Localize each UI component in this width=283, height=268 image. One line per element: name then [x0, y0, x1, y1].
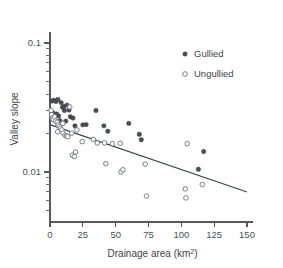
data-point-ungullied	[80, 139, 85, 144]
y-tick-label: 0.1	[28, 37, 41, 48]
data-point-ungullied	[185, 141, 190, 146]
data-point-ungullied	[95, 141, 100, 146]
data-point-ungullied	[61, 121, 66, 126]
data-point-gullied	[139, 138, 143, 142]
data-point-ungullied	[200, 182, 205, 187]
data-point-ungullied	[73, 150, 78, 155]
data-point-ungullied	[183, 187, 188, 192]
data-point-ungullied	[55, 129, 60, 134]
data-point-gullied	[62, 108, 66, 112]
x-tick-label: 0	[47, 229, 52, 240]
x-tick-label: 75	[143, 229, 154, 240]
x-axis-title: Drainage area (km2)	[108, 248, 198, 259]
data-point-ungullied	[69, 131, 74, 136]
data-point-ungullied	[143, 162, 148, 167]
data-point-gullied	[94, 108, 98, 112]
data-point-gullied	[71, 116, 75, 120]
data-point-gullied	[127, 121, 131, 125]
y-axis-title: Valley slope	[9, 92, 20, 146]
data-point-gullied	[59, 100, 63, 104]
data-point-gullied	[137, 132, 141, 136]
legend-label-ungullied: Ungullied	[194, 68, 234, 79]
data-point-gullied	[106, 129, 110, 133]
data-point-ungullied	[121, 168, 126, 173]
data-point-ungullied	[184, 196, 189, 201]
data-point-ungullied	[118, 141, 123, 146]
data-point-gullied	[102, 124, 106, 128]
scatter-plot: 0.10.010255075100125150GulliedUngulliedD…	[0, 0, 283, 268]
data-point-ungullied	[91, 137, 96, 142]
data-point-ungullied	[104, 161, 109, 166]
legend-marker-gullied	[183, 52, 187, 56]
y-tick-label: 0.01	[23, 166, 42, 177]
data-point-gullied	[84, 122, 88, 126]
x-tick-label: 100	[173, 229, 189, 240]
data-point-ungullied	[52, 114, 57, 119]
data-point-gullied	[196, 167, 200, 171]
data-point-gullied	[201, 149, 205, 153]
x-tick-label: 125	[206, 229, 222, 240]
data-point-ungullied	[75, 128, 80, 133]
data-point-ungullied	[67, 105, 72, 110]
x-tick-label: 50	[110, 229, 121, 240]
regression-trend-line	[50, 125, 247, 192]
chart-figure: 0.10.010255075100125150GulliedUngulliedD…	[0, 0, 283, 268]
legend-label-gullied: Gullied	[194, 48, 224, 59]
data-point-ungullied	[102, 141, 107, 146]
x-tick-label: 150	[239, 229, 255, 240]
legend-marker-ungullied	[183, 72, 188, 77]
data-point-ungullied	[144, 194, 149, 199]
data-point-ungullied	[72, 154, 77, 159]
x-tick-label: 25	[78, 229, 89, 240]
data-point-ungullied	[110, 141, 115, 146]
data-point-ungullied	[65, 134, 70, 139]
